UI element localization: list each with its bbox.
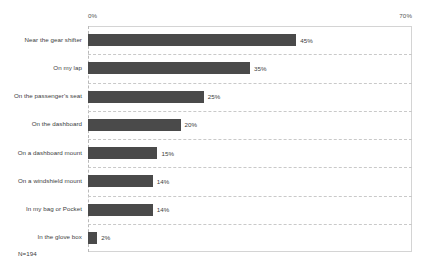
category-label: On my lap (0, 65, 82, 72)
x-axis-tick-label-min: 0% (88, 12, 97, 19)
bar-value-label: 14% (157, 206, 170, 213)
bar-track: 20% (88, 111, 412, 139)
x-axis-tick-label-max: 70% (399, 12, 412, 19)
bar-track: 35% (88, 54, 412, 82)
bar-row: On the passenger's seat25% (0, 83, 433, 111)
x-axis-tick-labels: 0% 70% (88, 12, 412, 24)
bar[interactable] (88, 147, 157, 159)
bar-row: On a windshield mount14% (0, 167, 433, 195)
bar[interactable] (88, 91, 204, 103)
bar-track: 15% (88, 139, 412, 167)
bar-track: 14% (88, 196, 412, 224)
category-label: On a windshield mount (0, 178, 82, 185)
gridline (88, 111, 412, 112)
bar-value-label: 15% (161, 150, 174, 157)
category-label: On the passenger's seat (0, 93, 82, 100)
gridline (88, 54, 412, 55)
bar-value-label: 20% (185, 121, 198, 128)
bar-track: 14% (88, 167, 412, 195)
bar-track: 25% (88, 83, 412, 111)
bar-row: Near the gear shifter45% (0, 26, 433, 54)
gridline (88, 167, 412, 168)
gridline (88, 83, 412, 84)
bar-value-label: 2% (101, 234, 110, 241)
sample-size-note: N=194 (18, 250, 37, 257)
bar-value-label: 14% (157, 178, 170, 185)
bar-row: On the dashboard20% (0, 111, 433, 139)
bar-row: In the glove box2% (0, 224, 433, 252)
bar-row: In my bag or Pocket14% (0, 196, 433, 224)
bar-value-label: 35% (254, 65, 267, 72)
bar-row: On my lap35% (0, 54, 433, 82)
bar-track: 2% (88, 224, 412, 252)
category-label: Near the gear shifter (0, 37, 82, 44)
bar[interactable] (88, 204, 153, 216)
gridline (88, 196, 412, 197)
bar-chart: 0% 70% Near the gear shifter45%On my lap… (0, 0, 433, 271)
bar[interactable] (88, 34, 296, 46)
bar[interactable] (88, 175, 153, 187)
bar[interactable] (88, 119, 181, 131)
category-label: In the glove box (0, 234, 82, 241)
bar[interactable] (88, 62, 250, 74)
gridline (88, 139, 412, 140)
gridline (88, 224, 412, 225)
bar-track: 45% (88, 26, 412, 54)
category-label: In my bag or Pocket (0, 206, 82, 213)
category-label: On a dashboard mount (0, 150, 82, 157)
bar-value-label: 45% (300, 37, 313, 44)
bar[interactable] (88, 232, 97, 244)
bar-row: On a dashboard mount15% (0, 139, 433, 167)
bar-rows: Near the gear shifter45%On my lap35%On t… (0, 26, 433, 252)
bar-value-label: 25% (208, 93, 221, 100)
category-label: On the dashboard (0, 121, 82, 128)
